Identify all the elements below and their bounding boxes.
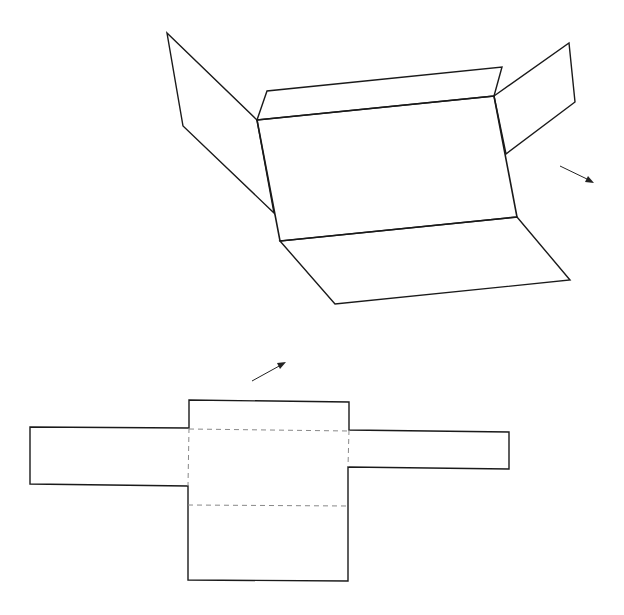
fold-line-bottom — [188, 505, 348, 506]
box-folding-diagram — [0, 0, 624, 615]
main-face — [257, 96, 517, 241]
arrow-right — [560, 166, 594, 183]
flat-net — [30, 400, 509, 581]
arrowhead-icon — [277, 362, 286, 369]
right-flap — [494, 43, 575, 154]
fold-line-top — [189, 429, 349, 431]
net-outline — [30, 400, 509, 581]
arrowhead-icon — [585, 176, 594, 183]
fold-line-right — [348, 430, 349, 467]
bottom-flap — [280, 217, 570, 304]
fold-line-left — [188, 428, 189, 486]
top-flap — [257, 67, 502, 120]
folded-box — [167, 33, 575, 304]
arrow-up — [252, 362, 286, 381]
